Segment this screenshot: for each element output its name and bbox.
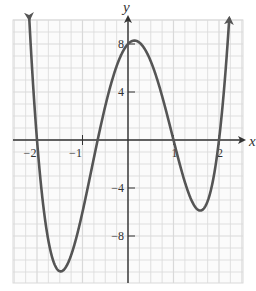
x-tick-label: −2 [24,146,37,160]
y-tick-label: 4 [118,85,124,99]
polynomial-graph: −2−11284−4−8 x y [0,0,256,291]
y-axis-label: y [121,0,130,15]
y-tick-label: −8 [111,229,124,243]
x-axis-label: x [248,133,256,149]
x-tick-label: −1 [69,146,82,160]
y-tick-label: −4 [111,181,124,195]
